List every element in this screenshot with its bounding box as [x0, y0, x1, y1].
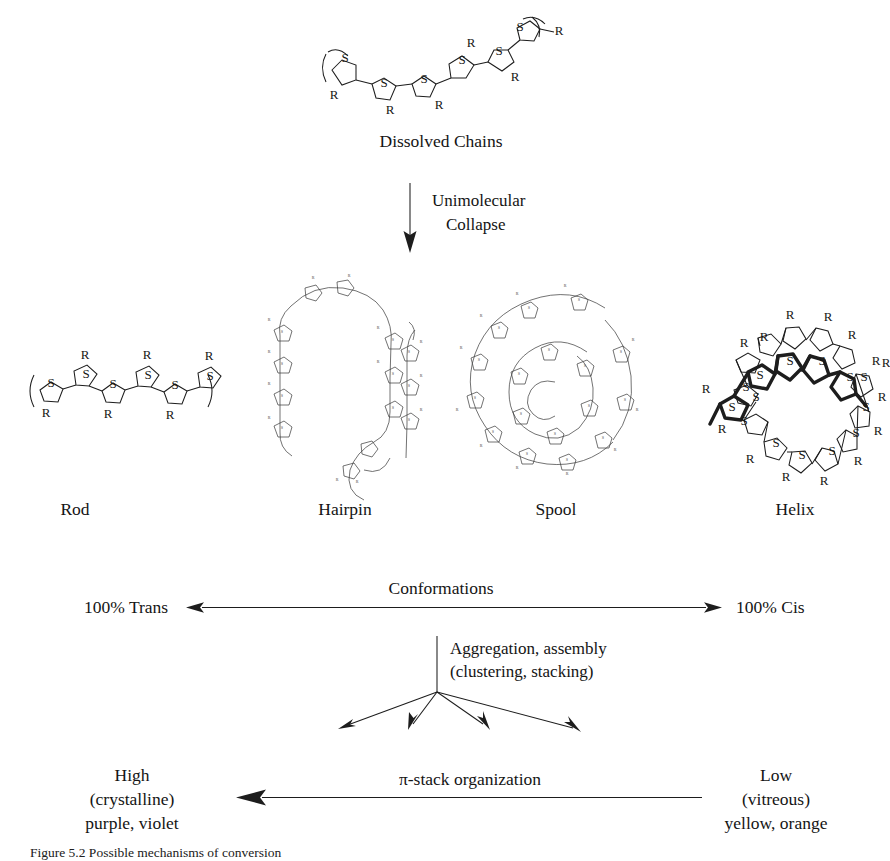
svg-text:R: R	[420, 373, 423, 378]
svg-text:S: S	[144, 367, 151, 382]
svg-text:R: R	[460, 345, 463, 350]
svg-text:R: R	[848, 327, 857, 342]
svg-text:R: R	[516, 291, 519, 296]
svg-text:S: S	[584, 363, 587, 368]
svg-text:S: S	[341, 50, 348, 65]
svg-text:R: R	[740, 335, 749, 350]
svg-text:S: S	[772, 435, 779, 450]
svg-text:R: R	[330, 87, 339, 102]
svg-text:R: R	[760, 329, 769, 344]
low-label-line3: yellow, orange	[725, 813, 828, 835]
pi-stack-axis-arrow	[236, 788, 702, 808]
svg-text:R: R	[348, 273, 351, 278]
rod-label: Rod	[60, 499, 89, 521]
svg-text:S: S	[380, 75, 387, 90]
conformations-axis-title: Conformations	[389, 578, 494, 600]
svg-text:S: S	[620, 349, 623, 354]
svg-text:S: S	[516, 19, 523, 34]
high-label-line3: purple, violet	[85, 813, 178, 835]
svg-text:R: R	[878, 389, 887, 404]
svg-text:R: R	[882, 355, 890, 370]
svg-text:S: S	[408, 383, 411, 388]
svg-text:R: R	[268, 415, 271, 420]
svg-text:R: R	[268, 349, 271, 354]
svg-text:R: R	[467, 35, 476, 50]
svg-text:R: R	[636, 407, 639, 412]
svg-text:S: S	[786, 353, 793, 368]
svg-text:R: R	[377, 359, 380, 364]
svg-text:S: S	[742, 379, 749, 394]
svg-text:R: R	[268, 381, 271, 386]
svg-text:R: R	[511, 69, 520, 84]
svg-text:S: S	[756, 367, 763, 382]
svg-text:S: S	[420, 71, 427, 86]
svg-text:S: S	[281, 329, 284, 334]
helix-label: Helix	[776, 499, 815, 521]
svg-text:R: R	[874, 423, 883, 438]
svg-text:R: R	[564, 283, 567, 288]
svg-text:R: R	[386, 102, 395, 117]
svg-text:R: R	[312, 275, 315, 280]
svg-text:S: S	[82, 366, 89, 381]
svg-text:R: R	[614, 447, 617, 452]
hairpin-label: Hairpin	[318, 499, 371, 521]
svg-text:S: S	[478, 357, 481, 362]
svg-text:R: R	[718, 421, 727, 436]
dissolved-chains-label: Dissolved Chains	[380, 131, 503, 153]
svg-text:R: R	[854, 453, 863, 468]
svg-text:R: R	[820, 473, 829, 488]
svg-text:S: S	[474, 395, 477, 400]
svg-text:S: S	[495, 43, 502, 58]
svg-text:R: R	[480, 443, 483, 448]
svg-text:R: R	[824, 309, 833, 324]
svg-text:S: S	[458, 52, 465, 67]
rod-structure: S S S S S S R R R R R R	[6, 352, 224, 447]
svg-text:S: S	[526, 451, 529, 456]
svg-text:S: S	[602, 435, 605, 440]
svg-text:S: S	[566, 457, 569, 462]
svg-text:S: S	[281, 425, 284, 430]
svg-text:S: S	[408, 349, 411, 354]
svg-text:S: S	[862, 399, 869, 414]
unimolecular-collapse-arrow	[398, 183, 428, 255]
svg-text:R: R	[420, 407, 423, 412]
svg-text:R: R	[480, 313, 483, 318]
svg-text:S: S	[109, 376, 116, 391]
svg-text:R: R	[377, 325, 380, 330]
svg-text:R: R	[104, 406, 113, 421]
svg-text:S: S	[281, 361, 284, 366]
svg-text:R: R	[81, 347, 90, 362]
svg-text:R: R	[420, 339, 423, 344]
svg-text:R: R	[166, 407, 175, 422]
svg-text:S: S	[392, 337, 395, 342]
svg-text:S: S	[740, 413, 747, 428]
svg-text:R: R	[786, 307, 795, 322]
collapse-text-line1: Unimolecular	[432, 190, 525, 211]
collapse-text-line2: Collapse	[446, 214, 506, 235]
svg-text:S: S	[206, 368, 213, 383]
high-label-line2: (crystalline)	[90, 789, 175, 811]
svg-text:S: S	[548, 347, 551, 352]
high-label-line1: High	[115, 765, 150, 787]
spool-structure: SSS SSS SSS SSS SSS SS RRR RRR RRR RR	[455, 278, 640, 483]
svg-text:R: R	[782, 469, 791, 484]
svg-text:S: S	[518, 371, 521, 376]
svg-text:S: S	[281, 393, 284, 398]
svg-text:S: S	[554, 431, 557, 436]
figure-caption: Figure 5.2 Possible mechanisms of conver…	[30, 845, 281, 861]
svg-text:R: R	[456, 407, 459, 412]
svg-text:S: S	[498, 325, 501, 330]
svg-text:S: S	[828, 443, 835, 458]
svg-text:R: R	[746, 451, 755, 466]
svg-text:S: S	[171, 377, 178, 392]
aggregation-fan	[325, 634, 600, 744]
svg-text:S: S	[528, 305, 531, 310]
svg-text:S: S	[588, 403, 591, 408]
svg-text:R: R	[205, 348, 214, 363]
svg-text:R: R	[143, 347, 152, 362]
svg-text:S: S	[492, 429, 495, 434]
svg-text:R: R	[872, 353, 881, 368]
svg-text:R: R	[356, 479, 359, 484]
svg-text:S: S	[860, 369, 867, 384]
svg-text:S: S	[578, 297, 581, 302]
